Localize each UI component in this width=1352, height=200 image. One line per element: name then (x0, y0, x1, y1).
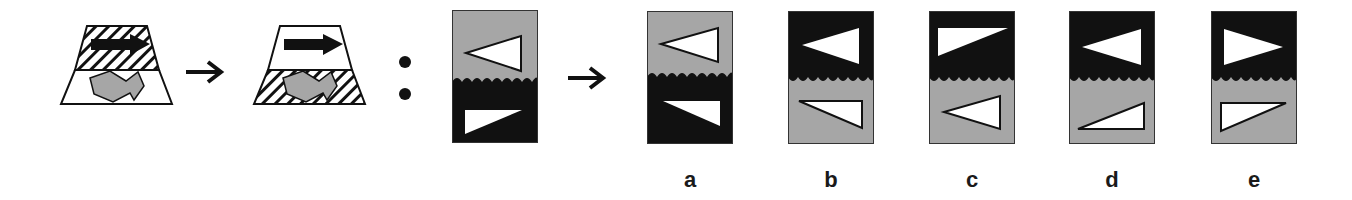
option-label: a (670, 168, 710, 192)
example-figure-before (58, 24, 178, 106)
option-d-panel[interactable] (1069, 11, 1155, 144)
option-b-panel[interactable] (788, 11, 874, 144)
option-e-panel[interactable] (1211, 11, 1297, 144)
question-panel (452, 10, 538, 143)
option-label: b (811, 168, 851, 192)
example-figure-after (251, 24, 371, 106)
arrow-icon (568, 66, 608, 90)
option-label: c (952, 168, 992, 192)
option-label: e (1234, 168, 1274, 192)
arrow-icon (186, 60, 226, 84)
colon-separator (398, 54, 412, 102)
option-a-panel[interactable] (647, 11, 733, 144)
option-c-panel[interactable] (929, 11, 1015, 144)
option-label: d (1092, 168, 1132, 192)
